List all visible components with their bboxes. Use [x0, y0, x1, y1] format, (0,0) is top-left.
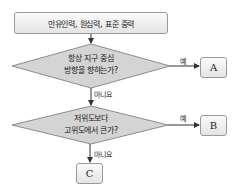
- start-label: 만유인력, 원심력, 표준 중력: [48, 18, 135, 29]
- terminal-a-label: A: [210, 62, 217, 73]
- decision-1-line-1: 항상 지구 중심: [40, 53, 142, 65]
- decision-2-line-2: 고위도에서 큰가?: [40, 125, 142, 137]
- terminal-b-label: B: [210, 120, 217, 131]
- terminal-box-b: B: [200, 115, 227, 136]
- decision-1-text: 항상 지구 중심 방향을 향하는가?: [40, 53, 142, 77]
- terminal-box-c: C: [76, 163, 103, 184]
- decision-2-text: 저위도보다 고위도에서 큰가?: [40, 113, 142, 137]
- decision-1-yes-label: 예: [180, 56, 186, 66]
- decision-2-line-1: 저위도보다: [40, 113, 142, 125]
- decision-2-no-label: 아니요: [94, 149, 112, 159]
- start-box: 만유인력, 원심력, 표준 중력: [14, 12, 168, 34]
- flowchart: 만유인력, 원심력, 표준 중력 항상 지구 중심 방향을 향하는가? 저위도보…: [0, 0, 240, 195]
- decision-1-no-label: 아니요: [94, 89, 112, 99]
- terminal-box-a: A: [200, 57, 227, 78]
- decision-1-line-2: 방향을 향하는가?: [40, 65, 142, 77]
- decision-2-yes-label: 예: [180, 113, 186, 123]
- terminal-c-label: C: [86, 168, 94, 179]
